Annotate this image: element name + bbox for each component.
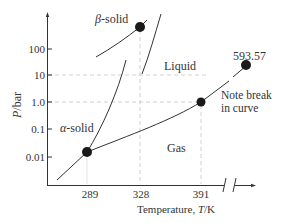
y-tick-labels: 100 10 1.0 0.1 0.01 xyxy=(26,43,46,163)
point-391 xyxy=(197,98,206,107)
y-axis-arrow-icon xyxy=(46,12,49,17)
triple-point-328 xyxy=(135,22,145,32)
alpha-beta-boundary xyxy=(87,60,126,152)
y-tick-label: 100 xyxy=(29,43,46,55)
dashed-guides xyxy=(48,30,206,184)
x-tick-label: 328 xyxy=(133,188,150,200)
break-note-line2: in curve xyxy=(221,102,258,114)
y-tick-label: 0.01 xyxy=(26,151,45,163)
x-tick-label: 289 xyxy=(82,188,99,200)
x-tick-label: 391 xyxy=(193,188,210,200)
critical-point-label: 593.57 xyxy=(233,49,266,63)
break-note: Note break in curve xyxy=(221,89,272,114)
y-tick-label: 0.1 xyxy=(31,123,45,135)
x-axis-arrow-icon xyxy=(251,184,256,187)
alpha-solid-label: α-solid xyxy=(60,121,94,135)
liquid-label: Liquid xyxy=(164,59,196,73)
break-note-line1: Note break xyxy=(221,89,272,101)
triple-point-289 xyxy=(82,147,92,157)
beta-liquid-boundary xyxy=(142,14,161,74)
region-labels: β-solid Liquid α-solid Gas xyxy=(60,12,196,155)
gas-label: Gas xyxy=(167,141,186,155)
beta-solid-label: β-solid xyxy=(94,12,128,26)
y-tick-label: 1.0 xyxy=(31,96,45,108)
beta-solid-boundary xyxy=(96,27,140,57)
y-axis-label: P/bar xyxy=(10,92,24,119)
y-tick-label: 10 xyxy=(34,69,46,81)
x-axis-label: Temperature, T/K xyxy=(137,203,215,215)
phase-diagram: 100 10 1.0 0.1 0.01 P/bar 289 328 391 Te… xyxy=(0,0,284,223)
sublimation-curve-alpha xyxy=(57,152,87,180)
x-tick-labels: 289 328 391 xyxy=(82,188,210,200)
